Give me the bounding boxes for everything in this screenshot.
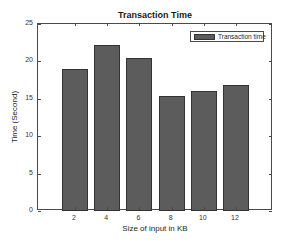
bar-4 [94, 45, 120, 211]
y-tick-mark [38, 61, 41, 62]
bar-12 [223, 85, 249, 211]
legend-swatch [194, 34, 215, 40]
y-tick-label: 25 [13, 19, 33, 26]
x-tick-mark [139, 207, 140, 210]
bar-chart: Transaction Time 246810120510152025 Size… [0, 0, 289, 244]
x-tick-mark [107, 207, 108, 210]
y-tick-mark [38, 136, 41, 137]
x-tick-label: 2 [64, 214, 84, 221]
bar-2 [62, 69, 88, 211]
y-tick-mark [269, 174, 272, 175]
x-tick-mark [75, 207, 76, 210]
bar-8 [159, 96, 185, 211]
x-tick-mark [172, 23, 173, 26]
y-tick-label: 5 [13, 169, 33, 176]
y-tick-mark [38, 174, 41, 175]
plot-area [37, 23, 272, 210]
x-axis-label: Size of input in KB [37, 224, 273, 233]
y-tick-mark [269, 61, 272, 62]
x-tick-label: 6 [128, 214, 148, 221]
legend-label: Transaction time [218, 32, 266, 41]
y-tick-mark [269, 99, 272, 100]
legend: Transaction time [190, 31, 264, 42]
x-tick-mark [236, 207, 237, 210]
x-tick-mark [75, 23, 76, 26]
y-tick-label: 20 [13, 56, 33, 63]
bar-6 [126, 58, 152, 211]
x-tick-mark [139, 23, 140, 26]
x-tick-mark [107, 23, 108, 26]
y-tick-mark [269, 24, 272, 25]
y-tick-label: 0 [13, 206, 33, 213]
y-tick-mark [269, 211, 272, 212]
x-tick-label: 10 [193, 214, 213, 221]
x-tick-mark [204, 23, 205, 26]
x-tick-label: 12 [225, 214, 245, 221]
y-tick-mark [38, 211, 41, 212]
y-tick-mark [38, 99, 41, 100]
x-tick-mark [236, 23, 237, 26]
x-tick-mark [204, 207, 205, 210]
bar-10 [191, 91, 217, 211]
y-tick-mark [38, 24, 41, 25]
x-tick-label: 8 [161, 214, 181, 221]
x-tick-mark [172, 207, 173, 210]
y-axis-label: Time (Second) [10, 91, 19, 143]
x-tick-label: 4 [96, 214, 116, 221]
y-tick-mark [269, 136, 272, 137]
chart-title: Transaction Time [37, 10, 273, 20]
